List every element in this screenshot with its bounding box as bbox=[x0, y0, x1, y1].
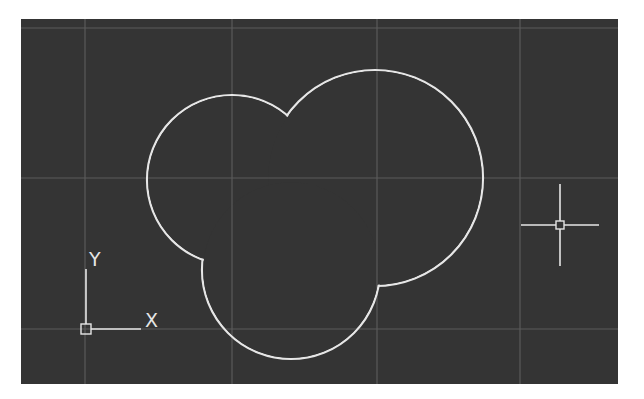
ucs-icon: Y X bbox=[81, 248, 158, 334]
crosshair-cursor-icon bbox=[521, 184, 599, 266]
ucs-x-label: X bbox=[145, 309, 158, 331]
ucs-y-label: Y bbox=[88, 248, 101, 270]
drawing-canvas[interactable]: Y X bbox=[21, 19, 618, 384]
drawing-viewport[interactable]: Y X bbox=[21, 19, 618, 384]
pickbox bbox=[556, 221, 564, 229]
region-interior bbox=[148, 71, 482, 358]
